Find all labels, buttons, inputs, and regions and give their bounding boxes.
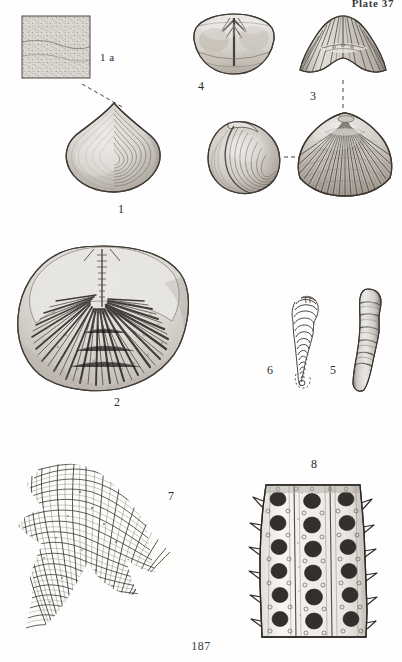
plate-header: Plate 37 xyxy=(352,0,394,9)
connector-3-vertical xyxy=(339,80,347,114)
fossil-plate: Plate 37 xyxy=(0,0,402,662)
figure-3-shell xyxy=(295,110,395,198)
label-1a: 1 a xyxy=(100,52,115,63)
figure-6-foram-outline xyxy=(283,294,327,392)
figure-8-bryozoan-branch xyxy=(248,477,378,639)
label-3: 3 xyxy=(310,90,316,102)
label-4: 4 xyxy=(198,80,204,92)
figure-1-shell xyxy=(63,100,165,194)
label-7: 7 xyxy=(168,490,174,502)
page-number: 187 xyxy=(0,639,402,654)
figure-3-anterior-view xyxy=(298,14,388,78)
figure-1a-inset xyxy=(22,16,90,78)
label-5: 5 xyxy=(330,364,336,376)
figure-7-bryozoan-mesh xyxy=(16,462,184,636)
label-6: 6 xyxy=(267,364,273,376)
label-8: 8 xyxy=(311,458,317,470)
label-1: 1 xyxy=(118,203,124,215)
figure-4-shell-interior xyxy=(192,12,276,82)
figure-3-lateral-view xyxy=(204,118,286,196)
figure-5-foram-test xyxy=(344,286,388,396)
figure-2-spinose-interior xyxy=(14,243,194,397)
label-2: 2 xyxy=(114,396,120,408)
